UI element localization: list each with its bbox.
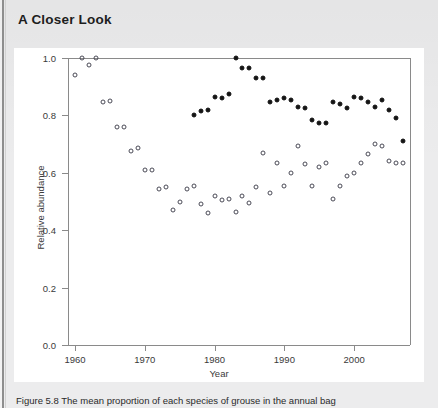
data-point-open [233,209,238,214]
page-background: A Closer Look 0.00.20.40.60.81.0 1960197… [0,0,438,408]
data-point-filled [198,109,203,114]
data-point-open [198,202,203,207]
data-point-open [338,183,343,188]
x-tick-label: 1970 [134,354,155,365]
data-point-open [366,152,371,157]
data-point-filled [261,76,266,81]
page-edge-rule-light [5,0,6,408]
x-axis-line [68,345,410,346]
data-point-filled [205,107,210,112]
data-point-filled [212,94,217,99]
data-point-open [226,196,231,201]
data-point-filled [345,106,350,111]
data-point-open [317,165,322,170]
y-tick-mark [62,288,68,289]
data-point-open [254,185,259,190]
y-axis-label: Relative abundance [35,88,46,328]
data-point-open [86,63,91,68]
data-point-open [177,199,182,204]
x-tick-mark [354,345,355,351]
data-point-open [296,143,301,148]
y-tick-label: 0.0 [14,340,56,351]
plot-frame-top [68,58,410,59]
data-point-open [247,200,252,205]
data-point-open [331,196,336,201]
data-point-filled [352,94,357,99]
data-point-filled [317,120,322,125]
data-point-filled [359,96,364,101]
data-point-filled [247,66,252,71]
x-tick-label: 1980 [204,354,225,365]
data-point-filled [380,97,385,102]
y-tick-mark [62,230,68,231]
data-point-filled [219,96,224,101]
data-point-filled [324,120,329,125]
data-point-open [205,210,210,215]
data-point-filled [240,66,245,71]
figure-caption-text: Figure 5.8 The mean proportion of each s… [16,396,336,406]
data-point-open [114,124,119,129]
data-point-open [324,160,329,165]
data-point-open [191,183,196,188]
data-point-filled [331,100,336,105]
data-point-open [107,99,112,104]
scatter-plot: 0.00.20.40.60.81.0 19601970198019902000 … [14,48,424,382]
y-tick-mark [62,58,68,59]
data-point-open [387,159,392,164]
data-point-filled [373,104,378,109]
data-point-filled [275,97,280,102]
data-point-filled [233,56,238,61]
data-point-open [163,185,168,190]
data-point-filled [366,100,371,105]
data-point-filled [282,96,287,101]
data-point-open [170,208,175,213]
plot-frame-right [410,58,411,345]
data-point-filled [254,76,259,81]
data-point-filled [338,101,343,106]
data-point-open [128,149,133,154]
y-tick-mark [62,345,68,346]
data-point-open [142,167,147,172]
data-point-open [219,198,224,203]
data-point-filled [289,97,294,102]
data-point-open [72,73,77,78]
data-point-open [121,124,126,129]
x-tick-mark [75,345,76,351]
data-point-filled [394,116,399,121]
data-point-open [79,56,84,61]
y-tick-label: 1.0 [14,53,56,64]
data-point-open [394,160,399,165]
page-edge-rule [2,0,4,408]
data-point-open [240,193,245,198]
x-tick-label: 1960 [64,354,85,365]
y-axis-line [68,58,69,345]
data-point-open [345,173,350,178]
data-point-open [359,160,364,165]
y-tick-mark [62,115,68,116]
data-point-filled [303,106,308,111]
data-point-open [282,183,287,188]
data-point-open [373,142,378,147]
data-point-filled [387,107,392,112]
x-axis-label: Year [14,368,424,379]
x-tick-label: 2000 [344,354,365,365]
data-point-open [268,190,273,195]
x-tick-mark [145,345,146,351]
data-point-filled [296,104,301,109]
data-point-open [212,193,217,198]
x-tick-label: 1990 [274,354,295,365]
data-point-open [380,143,385,148]
figure-caption-clipped: Figure 5.8 The mean proportion of each s… [14,396,424,408]
data-point-filled [226,91,231,96]
data-point-open [303,162,308,167]
data-point-filled [310,117,315,122]
data-point-open [401,160,406,165]
data-point-filled [191,113,196,118]
data-point-open [135,146,140,151]
data-point-open [149,167,154,172]
y-tick-mark [62,173,68,174]
figure-panel: 0.00.20.40.60.81.0 19601970198019902000 … [14,48,424,382]
data-point-open [310,183,315,188]
box-title: A Closer Look [18,12,112,27]
data-point-open [352,170,357,175]
